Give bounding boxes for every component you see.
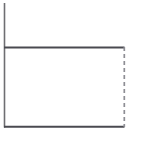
step-plot-chart	[0, 0, 141, 142]
figure-canvas	[0, 0, 141, 142]
chart-background	[0, 0, 141, 142]
